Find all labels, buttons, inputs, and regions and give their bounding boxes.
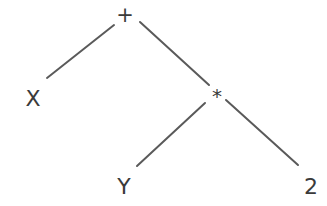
edge-times-to-two xyxy=(226,100,298,165)
node-plus-operator: + xyxy=(116,3,134,27)
node-times-operator: * xyxy=(212,84,222,108)
expression-tree-diagram: + X * Y 2 xyxy=(0,0,327,206)
edge-times-to-y xyxy=(137,103,205,166)
edge-plus-to-x xyxy=(47,25,114,78)
node-y-variable: Y xyxy=(116,174,131,199)
edge-plus-to-times xyxy=(140,22,209,85)
node-x-variable: X xyxy=(25,86,40,111)
tree-nodes: + X * Y 2 xyxy=(25,3,318,199)
node-two-constant: 2 xyxy=(304,174,318,199)
tree-edges xyxy=(47,22,298,166)
